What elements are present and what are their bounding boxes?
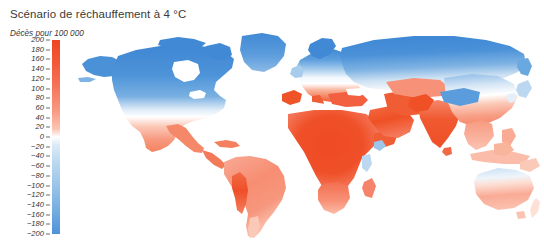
- legend-tick-mark: [46, 127, 50, 128]
- world-map: [74, 26, 540, 240]
- legend-tick-label: 40: [36, 114, 44, 122]
- region-japan: [516, 80, 532, 98]
- region-kamchatka: [517, 58, 532, 76]
- legend-tick-mark: [46, 117, 50, 118]
- region-australia: [474, 168, 534, 210]
- legend-tick-label: −80: [31, 172, 44, 180]
- region-africa: [288, 110, 382, 192]
- legend-tick-mark: [46, 88, 50, 89]
- legend-tick-label: −20: [31, 143, 44, 151]
- legend-tick-mark: [46, 175, 50, 176]
- legend-tick-label: 80: [36, 94, 44, 102]
- region-aleutians: [78, 77, 96, 82]
- legend-tick-label: −100: [27, 182, 44, 190]
- legend-tick-mark: [46, 78, 50, 79]
- legend: 200180160140120100806040200−20−40−60−80−…: [0, 38, 66, 236]
- legend-tick-label: 180: [31, 46, 44, 54]
- world-map-svg: [74, 26, 540, 240]
- legend-tick-mark: [46, 137, 50, 138]
- page-title: Scénario de réchauffement à 4 °C: [10, 8, 186, 20]
- region-southern-africa: [318, 182, 350, 214]
- legend-tick-mark: [46, 214, 50, 215]
- legend-tick-mark: [46, 224, 50, 225]
- legend-tick-list: 200180160140120100806040200−20−40−60−80−…: [0, 38, 52, 236]
- region-east-africa-lakes: [362, 154, 372, 172]
- map-landmasses: [78, 33, 540, 238]
- region-north-america: [112, 45, 234, 152]
- legend-tick-label: 140: [31, 65, 44, 73]
- climate-mortality-map-figure: Scénario de réchauffement à 4 °C Décès p…: [0, 0, 544, 245]
- legend-tick-label: −180: [27, 221, 44, 229]
- legend-tick-label: −200: [27, 230, 44, 238]
- legend-colorbar: [52, 40, 60, 234]
- region-patagonia: [248, 216, 260, 238]
- legend-tick-mark: [46, 40, 50, 41]
- region-tasmania: [516, 211, 526, 219]
- region-madagascar: [362, 178, 376, 198]
- region-central-america: [202, 150, 226, 169]
- legend-tick-mark: [46, 166, 50, 167]
- legend-tick-label: −60: [31, 162, 44, 170]
- legend-tick-label: 100: [31, 85, 44, 93]
- legend-tick-label: 120: [31, 75, 44, 83]
- legend-tick-mark: [46, 185, 50, 186]
- legend-tick-label: −120: [27, 191, 44, 199]
- legend-tick-mark: [46, 98, 50, 99]
- legend-tick-mark: [46, 146, 50, 147]
- region-caribbean: [214, 140, 240, 148]
- legend-tick-label: 0: [40, 133, 44, 141]
- legend-tick-mark: [46, 195, 50, 196]
- legend-unit-label: Décès pour 100 000: [10, 29, 84, 38]
- legend-tick-label: −160: [27, 211, 44, 219]
- legend-tick-label: −140: [27, 201, 44, 209]
- region-greenland: [240, 33, 286, 72]
- legend-tick-mark: [46, 49, 50, 50]
- feature-black-sea: [346, 88, 368, 96]
- region-sri-lanka: [442, 147, 452, 156]
- legend-tick-label: 200: [31, 36, 44, 44]
- legend-tick-mark: [46, 59, 50, 60]
- region-andes: [232, 172, 248, 214]
- legend-tick-mark: [46, 69, 50, 70]
- legend-tick-mark: [46, 156, 50, 157]
- legend-tick-mark: [46, 204, 50, 205]
- legend-tick-mark: [46, 107, 50, 108]
- region-southeast-asia: [464, 120, 494, 150]
- region-new-zealand: [530, 198, 540, 218]
- legend-tick-mark: [46, 234, 50, 235]
- legend-tick-label: 60: [36, 104, 44, 112]
- region-iberia: [282, 90, 302, 105]
- legend-tick-label: 20: [36, 124, 44, 132]
- legend-tick-label: 160: [31, 56, 44, 64]
- legend-tick-label: −40: [31, 153, 44, 161]
